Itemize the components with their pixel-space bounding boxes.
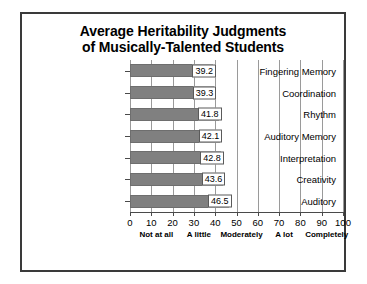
bar-value-label: 42.8 [200,151,224,164]
x-axis-tick-label: 90 [316,217,327,228]
category-tick [125,71,130,72]
bar-value-label: 46.5 [208,195,232,208]
bar-value-label: 39.3 [193,86,217,99]
category-tick [125,93,130,94]
bar-value-label: 41.8 [198,108,222,121]
category-label: Auditory Memory [264,131,336,142]
x-axis-tick-label: 100 [335,217,351,228]
x-axis-tick-60 [258,212,259,216]
scale-anchor-label: Moderately [220,230,262,240]
category-tick [125,136,130,137]
category-label: Coordination [282,87,336,98]
x-axis-tick-10 [151,212,152,216]
category-tick [125,201,130,202]
x-axis-tick-100 [343,212,344,216]
x-axis-tick-80 [300,212,301,216]
bar-value-label: 39.2 [192,64,216,77]
gridline-100 [343,60,344,212]
category-tick [125,179,130,180]
category-label: Auditory [301,196,336,207]
scale-anchor-label: Not at all [139,230,173,240]
x-axis-tick-label: 0 [127,217,132,228]
chart-title: Average Heritability Judgments of Musica… [22,23,344,55]
scale-anchor-label: A little [187,230,211,240]
scale-anchor-label: Completely [305,230,348,240]
chart-frame: Average Heritability Judgments of Musica… [20,12,346,272]
bar-value-label: 42.1 [199,130,223,143]
x-axis-tick-label: 40 [210,217,221,228]
category-label: Fingering Memory [259,65,336,76]
x-axis-tick-20 [173,212,174,216]
x-axis-tick-label: 70 [274,217,285,228]
x-axis-tick-40 [215,212,216,216]
scale-anchor-label: A lot [275,230,292,240]
x-axis-tick-90 [322,212,323,216]
category-tick [125,114,130,115]
x-axis-tick-label: 10 [146,217,157,228]
x-axis-tick-label: 60 [253,217,264,228]
x-axis-tick-label: 30 [189,217,200,228]
category-label: Interpretation [280,152,336,163]
category-tick [125,158,130,159]
x-axis-tick-50 [237,212,238,216]
chart-title-line-1: Average Heritability Judgments [22,23,344,39]
x-axis-tick-70 [279,212,280,216]
x-axis-tick-label: 80 [295,217,306,228]
x-axis-tick-30 [194,212,195,216]
category-label: Creativity [296,174,336,185]
x-axis-tick-0 [130,212,131,216]
chart-title-line-2: of Musically-Talented Students [22,39,344,55]
x-axis-tick-label: 50 [231,217,242,228]
x-axis-tick-label: 20 [167,217,178,228]
bar-value-label: 43.6 [202,173,226,186]
category-label: Rhythm [303,109,336,120]
